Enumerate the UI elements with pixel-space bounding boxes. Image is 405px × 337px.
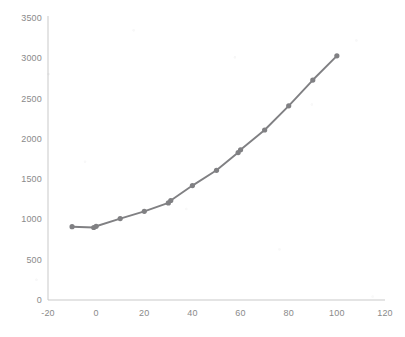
data-point-marker — [94, 224, 99, 229]
x-tick-label: 40 — [187, 308, 197, 318]
data-point-marker — [69, 224, 74, 229]
data-point-marker — [310, 77, 315, 82]
data-point-marker — [334, 53, 339, 58]
y-tick-label: 3000 — [21, 53, 42, 63]
x-tick-label: 0 — [94, 308, 99, 318]
x-tick-label: 100 — [329, 308, 345, 318]
x-tick-label: 120 — [377, 308, 393, 318]
data-point-marker — [214, 168, 219, 173]
y-tick-label: 2500 — [21, 94, 42, 104]
y-tick-label: 0 — [37, 295, 42, 305]
y-tick-label: 1000 — [21, 214, 42, 224]
data-point-marker — [142, 209, 147, 214]
y-tick-label: 3500 — [21, 13, 42, 23]
x-tick-label: 80 — [283, 308, 293, 318]
y-tick-label: 500 — [26, 255, 42, 265]
y-tick-label: 2000 — [21, 134, 42, 144]
data-point-marker — [168, 198, 173, 203]
x-tick-label: -20 — [41, 308, 55, 318]
chart-background — [0, 0, 405, 337]
y-tick-label: 1500 — [21, 174, 42, 184]
data-point-marker — [118, 216, 123, 221]
data-point-marker — [190, 183, 195, 188]
data-point-marker — [286, 103, 291, 108]
x-tick-label: 20 — [139, 308, 149, 318]
line-chart: 0500100015002000250030003500 -2002040608… — [0, 0, 405, 337]
chart-canvas — [0, 0, 405, 337]
x-tick-label: 60 — [235, 308, 245, 318]
data-point-marker — [262, 127, 267, 132]
data-point-marker — [238, 147, 243, 152]
